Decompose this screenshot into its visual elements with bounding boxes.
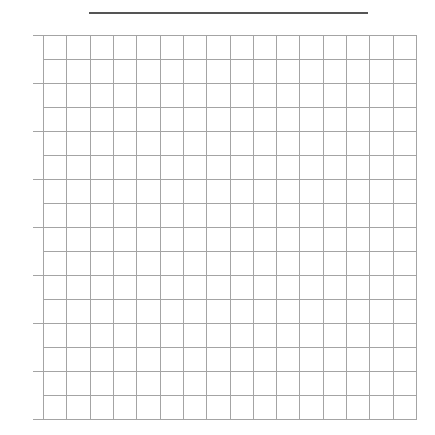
grid-horizontal-line (43, 347, 417, 348)
grid-horizontal-line (33, 323, 417, 324)
grid-horizontal-line (33, 131, 417, 132)
grid-horizontal-line (33, 35, 417, 36)
grid-horizontal-line (33, 371, 417, 372)
grid-horizontal-line (33, 179, 417, 180)
grid-horizontal-line (33, 227, 417, 228)
grid-horizontal-line (43, 155, 417, 156)
grid-horizontal-line (33, 419, 417, 420)
grid-horizontal-line (43, 59, 417, 60)
grid-horizontal-line (43, 203, 417, 204)
grid-horizontal-line (43, 395, 417, 396)
grid-horizontal-line (43, 251, 417, 252)
grid-horizontal-line (43, 107, 417, 108)
graph-paper-grid (0, 0, 435, 435)
grid-horizontal-line (33, 275, 417, 276)
grid-horizontal-line (33, 83, 417, 84)
grid-horizontal-line (43, 299, 417, 300)
